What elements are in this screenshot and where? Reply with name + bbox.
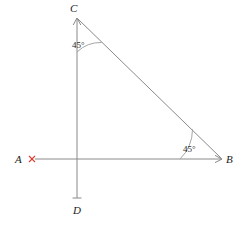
angle-label-b: 45° [183, 144, 196, 154]
label-point-b: B [226, 153, 233, 165]
label-point-d: D [72, 204, 81, 216]
geometry-figure: C B A D 45° 45° [0, 0, 241, 230]
angle-label-c: 45° [72, 40, 85, 50]
point-a-cross-icon [29, 156, 35, 162]
label-point-c: C [70, 2, 78, 14]
hypotenuse-line [78, 19, 221, 158]
label-point-a: A [14, 153, 22, 165]
